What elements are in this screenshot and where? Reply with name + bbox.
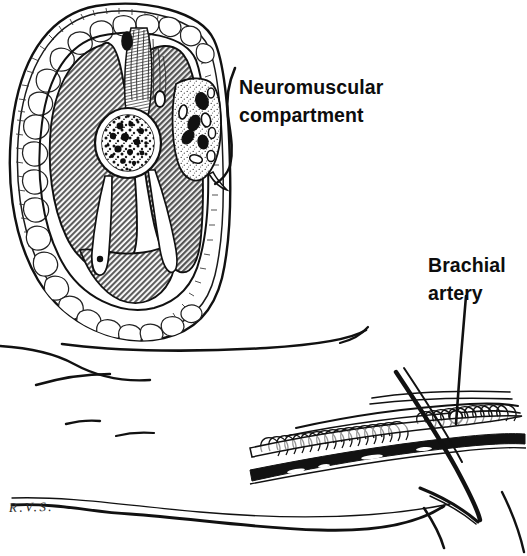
contour-dash-1: [66, 421, 100, 424]
artist-signature: R.V.S.: [9, 499, 54, 516]
contour-dash-2: [116, 433, 154, 436]
label-neuromuscular-line1: Neuromuscular: [239, 74, 383, 102]
small-vein-2: [207, 150, 215, 161]
label-neuromuscular-line2: compartment: [239, 102, 383, 130]
contour-bottom: [12, 505, 444, 531]
label-neuromuscular-compartment: Neuromuscular compartment: [239, 74, 383, 129]
anatomical-figure: Neuromuscular compartment Brachial arter…: [0, 0, 527, 556]
label-brachial-line2: artery: [428, 280, 506, 308]
small-vein-5: [208, 88, 215, 98]
upper-arm-cross-section: [10, 4, 230, 346]
label-brachial-artery: Brachial artery: [428, 252, 506, 307]
cephalic-vein: [122, 32, 132, 50]
septal-vessel: [97, 256, 103, 262]
contour-bottom-branch: [424, 508, 444, 548]
basilic-vein: [155, 91, 165, 107]
label-brachial-line1: Brachial: [428, 252, 506, 280]
contour-mid: [0, 346, 150, 380]
brachial-artery-longitudinal-view: [250, 296, 526, 524]
contour-right-edge: [502, 492, 524, 552]
small-vein-1: [208, 128, 215, 139]
